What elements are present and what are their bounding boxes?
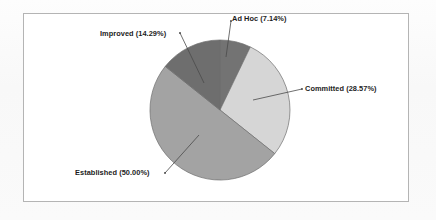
pie-label-improved: Improved (14.29%): [100, 29, 166, 38]
pie-label-committed: Committed (28.57%): [305, 84, 377, 93]
pie-label-ad-hoc: Ad Hoc (7.14%): [232, 14, 287, 23]
pie-chart-plot-area: Ad Hoc (7.14%) Improved (14.29%) Committ…: [0, 0, 436, 220]
leader-dot-improved: [179, 32, 181, 34]
pie-chart-svg: [0, 0, 436, 220]
leader-dot-committed: [301, 88, 303, 90]
chart-screenshot: Ad Hoc (7.14%) Improved (14.29%) Committ…: [0, 0, 436, 220]
pie-slices: [150, 40, 290, 180]
leader-dot-established: [164, 172, 166, 174]
pie-label-established: Established (50.00%): [75, 168, 150, 177]
